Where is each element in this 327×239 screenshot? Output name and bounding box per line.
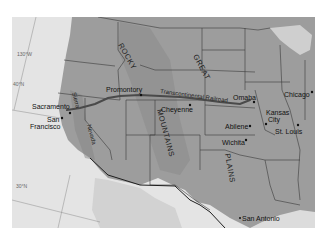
city-st-louis: St. Louis (275, 128, 303, 135)
longitude-130-label: 130°W (17, 51, 32, 57)
san-francisco-dot (61, 117, 63, 119)
city-wichita: Wichita (222, 139, 245, 146)
city-cheyenne: Cheyenne (161, 106, 193, 114)
city-city: City (268, 116, 281, 124)
city-promontory: Promontory (106, 86, 143, 94)
city-kansas: Kansas (266, 109, 290, 116)
san-antonio-dot (239, 217, 241, 219)
omaha-dot (253, 101, 255, 103)
city-chicago: Chicago (284, 91, 310, 99)
railroad-map: 130°W 40°N 30°N (12, 17, 315, 228)
city-san: San (47, 116, 60, 123)
wichita-dot (245, 139, 247, 141)
latitude-30-label: 30°N (16, 183, 28, 189)
city-omaha: Omaha (233, 94, 256, 101)
city-abilene: Abilene (225, 123, 248, 130)
city-san-antonio: San Antonio (242, 215, 280, 222)
st-louis-dot (297, 124, 299, 126)
chicago-dot (311, 91, 313, 93)
promontory-dot (140, 94, 142, 96)
sacramento-dot (69, 112, 71, 114)
kansas-city-dot (265, 123, 267, 125)
city-francisco: Francisco (30, 123, 60, 130)
abilene-dot (249, 125, 251, 127)
latitude-40-label: 40°N (13, 81, 25, 87)
city-sacramento: Sacramento (32, 103, 70, 110)
